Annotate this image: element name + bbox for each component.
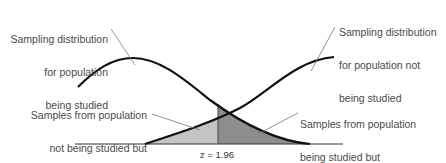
leader-line-not-studied: [311, 27, 335, 71]
label-type1-error: Samples from population being studied bu…: [300, 97, 420, 163]
type1-error-region: [218, 104, 310, 144]
critical-value-label: z = 1.96: [200, 149, 234, 160]
leader-line-type2: [152, 114, 200, 130]
leader-line-type1: [258, 113, 298, 134]
label-type2-error: Samples from population not being studie…: [31, 88, 147, 163]
